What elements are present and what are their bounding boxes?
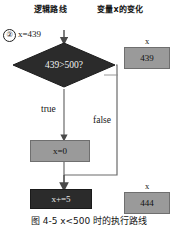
entry-value-label: x=439 bbox=[18, 29, 41, 39]
process-node-add-five: x+=5 bbox=[30, 189, 92, 209]
variable-name-top: x bbox=[124, 36, 170, 46]
variable-trace-bottom: x 444 bbox=[124, 181, 170, 214]
variable-name-bottom: x bbox=[124, 181, 170, 191]
column-header-logic-path: 逻辑路线 bbox=[34, 3, 67, 14]
variable-trace-top: x 439 bbox=[124, 36, 170, 69]
branch-label-true: true bbox=[40, 104, 57, 114]
decision-node: 439>500? bbox=[12, 42, 116, 88]
variable-value-top: 439 bbox=[124, 47, 170, 69]
step-number-badge: ② bbox=[3, 29, 16, 42]
figure-caption: 图 4-5 x<500 时的执行路线 bbox=[0, 214, 178, 225]
process-node-assign-zero: x=0 bbox=[30, 140, 90, 162]
branch-label-false: false bbox=[92, 115, 112, 125]
column-header-variable-change: 变量x的变化 bbox=[97, 3, 143, 14]
variable-value-bottom: 444 bbox=[124, 192, 170, 214]
decision-node-label: 439>500? bbox=[12, 42, 116, 88]
flowchart-canvas: 逻辑路线 变量x的变化 ② x=439 439>500? true false bbox=[0, 0, 178, 225]
